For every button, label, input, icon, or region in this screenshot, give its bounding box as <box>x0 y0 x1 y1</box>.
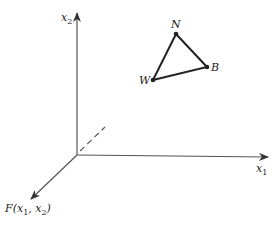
vertex-w <box>151 78 156 83</box>
vertex-b-label: B <box>210 61 219 74</box>
simplex-triangle <box>153 34 207 80</box>
dashed-projection-line <box>80 127 105 151</box>
f-axis-label: F(x1, x2) <box>4 202 51 217</box>
x2-axis-label: x2 <box>61 11 72 26</box>
x1-axis-label: x1 <box>256 162 267 177</box>
vertex-b <box>205 65 210 70</box>
x1-axis <box>77 155 268 157</box>
f-axis <box>31 155 77 199</box>
simplex-diagram: N B W x2 x1 F(x1, x2) <box>0 0 275 225</box>
vertex-w-label: W <box>139 74 152 87</box>
vertex-n <box>174 32 179 37</box>
vertex-n-label: N <box>170 18 181 31</box>
